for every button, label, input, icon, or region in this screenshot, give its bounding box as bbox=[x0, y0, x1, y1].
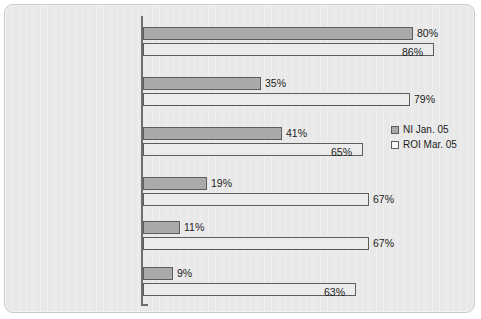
bar-value-label: 9% bbox=[177, 266, 192, 280]
bar-row: 86% bbox=[143, 43, 473, 56]
bar-value-label: 67% bbox=[373, 236, 394, 250]
bar-value-label: 80% bbox=[417, 26, 438, 40]
bar-roi[interactable] bbox=[143, 193, 369, 206]
legend-label: NI Jan. 05 bbox=[403, 124, 449, 135]
bar-roi[interactable] bbox=[143, 93, 410, 106]
chart-plot-area: Any change80%86%Paid more attention toth… bbox=[5, 5, 475, 313]
legend-item[interactable]: ROI Mar. 05 bbox=[391, 138, 457, 151]
bar-value-label: 41% bbox=[286, 126, 307, 140]
bar-roi[interactable] bbox=[143, 43, 434, 56]
bar-value-label: 86% bbox=[402, 45, 423, 59]
legend-swatch-roi bbox=[391, 141, 399, 149]
chart-frame: Any change80%86%Paid more attention toth… bbox=[4, 4, 475, 313]
bar-value-label: 63% bbox=[324, 285, 345, 299]
bar-ni[interactable] bbox=[143, 127, 282, 140]
bar-row: 19% bbox=[143, 177, 473, 190]
bar-value-label: 65% bbox=[331, 145, 352, 159]
bar-ni[interactable] bbox=[143, 221, 180, 234]
category-axis-foot-tick bbox=[141, 304, 148, 306]
bar-value-label: 11% bbox=[184, 220, 204, 234]
bar-row: 35% bbox=[143, 77, 473, 90]
bar-ni[interactable] bbox=[143, 77, 261, 90]
legend-item[interactable]: NI Jan. 05 bbox=[391, 123, 457, 136]
chart-legend: NI Jan. 05ROI Mar. 05 bbox=[391, 123, 457, 153]
bar-row: 67% bbox=[143, 193, 473, 206]
legend-label: ROI Mar. 05 bbox=[403, 139, 457, 150]
legend-swatch-ni bbox=[391, 126, 399, 134]
bar-ni[interactable] bbox=[143, 27, 413, 40]
bar-ni[interactable] bbox=[143, 177, 207, 190]
bar-row: 80% bbox=[143, 27, 473, 40]
bar-roi[interactable] bbox=[143, 143, 363, 156]
bar-row: 79% bbox=[143, 93, 473, 106]
bar-row: 67% bbox=[143, 237, 473, 250]
bar-row: 63% bbox=[143, 283, 473, 296]
bar-row: 9% bbox=[143, 267, 473, 280]
category-axis-line bbox=[141, 16, 143, 306]
bar-value-label: 19% bbox=[211, 176, 232, 190]
bar-row: 11% bbox=[143, 221, 473, 234]
bar-value-label: 79% bbox=[414, 92, 435, 106]
bar-roi[interactable] bbox=[143, 237, 369, 250]
bar-ni[interactable] bbox=[143, 267, 173, 280]
bar-value-label: 35% bbox=[265, 76, 286, 90]
bar-value-label: 67% bbox=[373, 192, 394, 206]
